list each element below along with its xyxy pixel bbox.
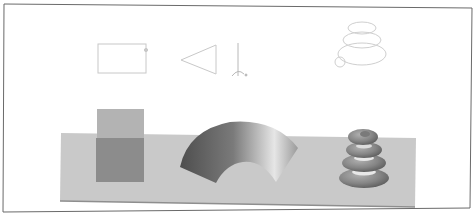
extruded-box <box>96 109 144 182</box>
figure-frame <box>0 0 475 219</box>
